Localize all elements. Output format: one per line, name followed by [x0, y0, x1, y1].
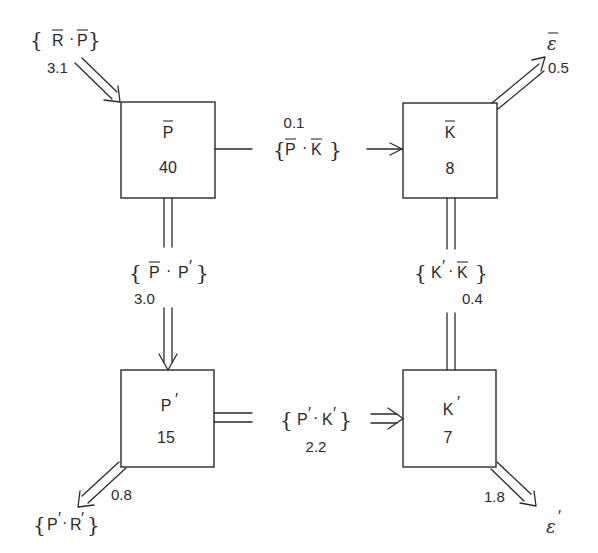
flow-p-prime-to-k-prime: { P ′ · K ′ } 2.2	[214, 405, 403, 455]
node-symbol: K	[445, 124, 456, 141]
label-b: P	[77, 32, 88, 49]
brace-open: {	[33, 513, 46, 537]
prime-mark: ′	[333, 405, 336, 422]
prime-mark: ′	[58, 510, 61, 527]
node-symbol: K	[443, 401, 454, 418]
node-box	[403, 370, 496, 467]
node-p-prime: P ′ 15	[121, 370, 214, 467]
dot: ·	[302, 139, 307, 156]
prime-mark: ′	[457, 394, 460, 411]
label-a: P	[285, 141, 296, 158]
epsilon-symbol: ε	[547, 33, 557, 54]
node-value: 7	[444, 429, 453, 446]
node-box	[121, 370, 214, 467]
brace-close: }	[339, 408, 352, 432]
single-arrow-icon	[367, 143, 402, 155]
prime-mark: ′	[189, 258, 192, 275]
prime-mark: ′	[308, 405, 311, 422]
node-value: 40	[159, 159, 177, 176]
flow-k-prime-k-bar: { K ′ · K } 0.4	[414, 198, 488, 370]
node-k-prime: K ′ 7	[403, 370, 496, 467]
brace-close: }	[87, 513, 100, 537]
node-box	[121, 102, 215, 198]
brace-close: }	[329, 138, 342, 162]
double-arrow-icon	[159, 308, 177, 370]
flow-p-bar-to-p-prime: { P · P ′ } 3.0	[129, 198, 209, 370]
label-a: P	[47, 516, 58, 533]
prime-mark: ′	[558, 508, 561, 525]
node-value: 15	[157, 429, 175, 446]
dot: ·	[166, 262, 171, 279]
epsilon-symbol: ε	[546, 516, 556, 537]
brace-open: {	[273, 138, 286, 162]
label-b: R	[70, 516, 82, 533]
brace-close: }	[88, 28, 101, 52]
flow-value: 0.1	[284, 114, 305, 131]
brace-open: {	[414, 261, 427, 285]
label-b: K	[322, 411, 333, 428]
flow-value: 3.0	[134, 290, 155, 307]
label-a: P	[149, 264, 160, 281]
node-box	[403, 103, 497, 198]
prime-mark: ′	[175, 391, 178, 408]
double-arrow-icon	[492, 57, 545, 109]
dot: ·	[313, 409, 318, 426]
node-value: 8	[446, 160, 455, 177]
label-a: P	[297, 411, 308, 428]
flow-k-prime-to-epsilon-prime: 1.8 ε ′	[484, 462, 561, 537]
node-p-bar: P 40	[121, 102, 215, 198]
flow-value: 0.8	[111, 486, 132, 503]
prime-mark: ′	[442, 258, 445, 275]
flow-value: 0.5	[548, 59, 569, 76]
brace-open: {	[280, 408, 293, 432]
flow-value: 1.8	[484, 488, 505, 505]
flow-value: 3.1	[47, 59, 68, 76]
flow-p-prime-to-r-prime: 0.8 { P ′ · R ′ }	[33, 462, 132, 537]
dot: ·	[62, 514, 67, 531]
double-arrow-icon	[371, 408, 403, 429]
brace-close: }	[475, 261, 488, 285]
node-symbol: P	[161, 397, 172, 414]
node-symbol: P	[163, 124, 174, 141]
flow-k-bar-to-epsilon-bar: ε 0.5	[492, 33, 569, 109]
double-arrow-icon	[75, 58, 120, 102]
dot: ·	[69, 30, 74, 47]
label-a: R	[52, 32, 64, 49]
brace-open: {	[30, 28, 43, 52]
prime-mark: ′	[81, 510, 84, 527]
flow-value: 0.4	[462, 290, 483, 307]
flow-p-bar-to-k-bar: 0.1 { P · K }	[215, 114, 402, 162]
brace-close: }	[196, 261, 209, 285]
flow-r-bar-to-p-bar: { R · P } 3.1	[30, 28, 120, 102]
compartment-flow-diagram: P 40 K 8 P ′ 15 K ′ 7 { R · P } 3.1	[0, 0, 598, 553]
label-b: P	[178, 264, 189, 281]
label-a: K	[431, 264, 442, 281]
dot: ·	[448, 262, 453, 279]
label-b: K	[457, 264, 468, 281]
label-b: K	[311, 141, 322, 158]
brace-open: {	[129, 261, 142, 285]
flow-value: 2.2	[306, 438, 327, 455]
node-k-bar: K 8	[403, 103, 497, 198]
